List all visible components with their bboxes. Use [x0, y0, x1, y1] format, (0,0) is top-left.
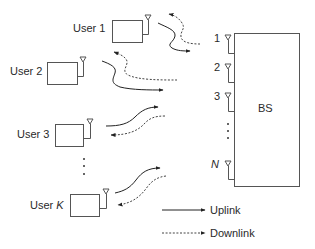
user-3-antenna-icon — [84, 119, 94, 139]
user-2-label: User 2 — [10, 65, 42, 77]
bs-antenna-1-icon — [225, 35, 235, 54]
legend: Uplink Downlink — [162, 204, 255, 239]
user-2-downlink-arrow — [114, 52, 177, 80]
user-k-uplink-arrow — [115, 168, 160, 193]
mimo-uplink-downlink-diagram: BS 1 2 3 N Us — [0, 0, 315, 249]
user-2-antenna-icon — [78, 57, 87, 77]
bs-antenna-3-label: 3 — [214, 90, 220, 102]
user-1-antenna-icon — [143, 15, 152, 35]
bs-antenna-3-icon — [225, 93, 235, 112]
base-station: BS 1 2 3 N — [211, 32, 300, 187]
user-k: User K — [30, 168, 166, 217]
user-1-label: User 1 — [73, 22, 105, 34]
user-k-downlink-arrow — [118, 176, 166, 205]
user-2: User 2 — [10, 52, 177, 90]
user-1-terminal — [113, 21, 143, 43]
bs-antenna-n-label: N — [211, 158, 219, 170]
base-station-label: BS — [258, 102, 273, 114]
bs-antenna-2-label: 2 — [214, 61, 220, 73]
bs-antenna-2-icon — [225, 64, 235, 83]
bs-antenna-1-label: 1 — [214, 32, 220, 44]
user-3-uplink-arrow — [106, 107, 158, 126]
legend-uplink-label: Uplink — [210, 204, 241, 216]
bs-antenna-n-icon — [225, 161, 235, 180]
user-2-terminal — [48, 63, 78, 85]
user-1-uplink-arrow — [158, 23, 190, 51]
user-3-terminal — [56, 125, 84, 147]
users-ellipsis — [83, 158, 85, 175]
user-3-label: User 3 — [17, 128, 49, 140]
user-k-antenna-icon — [100, 189, 110, 209]
user-3: User 3 — [17, 107, 165, 147]
bs-antenna-ellipsis — [227, 123, 229, 139]
user-2-uplink-arrow — [102, 61, 163, 90]
user-k-label: User K — [30, 199, 64, 211]
user-1: User 1 — [73, 14, 200, 51]
user-k-terminal — [71, 195, 100, 217]
legend-downlink-label: Downlink — [210, 227, 255, 239]
